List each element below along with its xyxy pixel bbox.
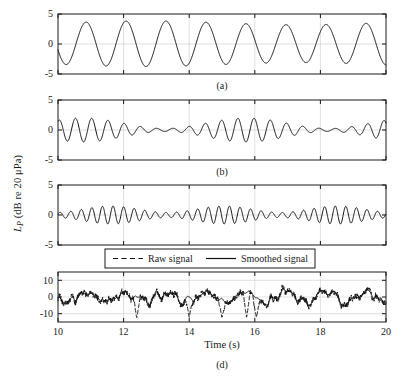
panel-caption-a: (a)	[216, 80, 227, 92]
y-tick-label: -5	[45, 154, 53, 165]
panel-caption-d: (d)	[216, 359, 228, 371]
y-tick-label: 5	[48, 8, 53, 19]
y-tick-label: -10	[40, 308, 53, 319]
y-tick-label: 0	[48, 124, 53, 135]
legend-label-smoothed: Smoothed signal	[241, 253, 308, 264]
x-tick-label: 12	[119, 326, 129, 337]
x-axis-label: Time (s)	[204, 339, 240, 351]
multi-panel-waveform-figure: -505-505-505-10010101214161820 (a)(b)(c)…	[0, 0, 404, 382]
y-tick-label: 0	[48, 38, 53, 49]
legend-label-raw: Raw signal	[148, 253, 193, 264]
panel-caption-b: (b)	[216, 166, 228, 178]
panel-b: -505	[45, 94, 386, 165]
annotation-group: (a)(b)(c)(d)Time (s)Raw signalSmoothed s…	[105, 80, 315, 371]
y-tick-label: -5	[45, 239, 53, 250]
y-axis-label: LP (dB re 20 μPa)	[12, 155, 25, 232]
y-tick-label: 0	[48, 209, 53, 220]
y-axis-label-subscript: P	[16, 221, 25, 226]
y-tick-label: 10	[43, 275, 53, 286]
y-axis-label-unit: (dB re 20 μPa)	[12, 155, 23, 221]
panel-d: -10010101214161820	[40, 272, 391, 337]
panel-a: -505	[45, 8, 386, 79]
x-tick-label: 10	[53, 326, 63, 337]
y-tick-label: 0	[48, 291, 53, 302]
legend: Raw signalSmoothed signal	[105, 249, 315, 268]
y-tick-label: 5	[48, 179, 53, 190]
y-tick-label: -5	[45, 68, 53, 79]
x-tick-label: 18	[315, 326, 325, 337]
x-tick-label: 14	[184, 326, 194, 337]
y-tick-label: 5	[48, 94, 53, 105]
x-tick-label: 20	[381, 326, 391, 337]
x-tick-label: 16	[250, 326, 260, 337]
y-axis-label-symbol: L	[12, 226, 23, 232]
panel-c: -505	[45, 179, 386, 250]
